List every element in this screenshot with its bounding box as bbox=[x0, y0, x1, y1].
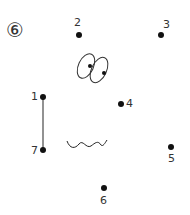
dot-3[interactable] bbox=[158, 32, 164, 38]
dot-label-4: 4 bbox=[126, 98, 133, 109]
dot-5[interactable] bbox=[168, 144, 174, 150]
dot-6[interactable] bbox=[101, 185, 107, 191]
eyes-drawing bbox=[74, 51, 112, 85]
dot-label-3: 3 bbox=[163, 19, 170, 30]
drawing-canvas bbox=[0, 0, 190, 215]
dot-label-2: 2 bbox=[74, 17, 81, 28]
dot-label-5: 5 bbox=[168, 153, 175, 164]
dot-1[interactable] bbox=[40, 94, 46, 100]
dot-2[interactable] bbox=[76, 32, 82, 38]
dot-label-7: 7 bbox=[31, 145, 38, 156]
mouth-squiggle bbox=[67, 140, 107, 147]
dot-label-6: 6 bbox=[100, 195, 107, 206]
dot-7[interactable] bbox=[40, 147, 46, 153]
dot-to-dot-worksheet: ⑥ 1 2 3 4 5 6 7 bbox=[0, 0, 190, 215]
dot-4[interactable] bbox=[118, 101, 124, 107]
dot-label-1: 1 bbox=[31, 91, 38, 102]
